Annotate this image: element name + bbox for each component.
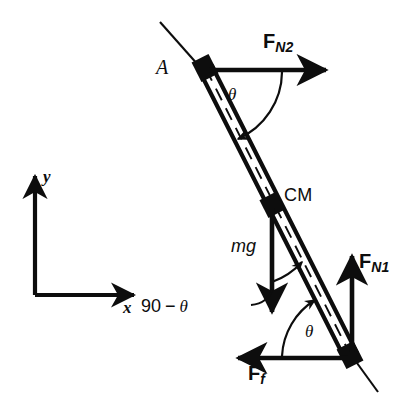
label-point-a: A [156, 57, 168, 77]
joint-blocks [192, 54, 364, 369]
figure-canvas: A FN2 CM mg 90−θ FN1 Ff θ θ y x [0, 0, 413, 411]
label-angle-top: θ [228, 86, 236, 103]
label-angle-center-of-mass: 90−θ [141, 297, 188, 315]
coordinate-axes [35, 176, 134, 295]
force-subscript: f [260, 371, 265, 387]
force-symbol: F [248, 362, 260, 384]
force-symbol: F [263, 30, 275, 52]
label-weight: mg [231, 237, 256, 255]
angle-theta-glyph: θ [180, 297, 188, 316]
label-axis-y: y [43, 168, 51, 185]
leader-line-angle-cm [251, 290, 272, 305]
force-symbol: F [359, 250, 371, 272]
force-subscript: N2 [275, 39, 293, 55]
ladder-free-body-diagram [0, 0, 413, 411]
label-axis-x: x [123, 299, 132, 316]
angle-value: 90 [141, 296, 161, 316]
label-center-of-mass: CM [284, 186, 313, 204]
angle-minus-sign: − [161, 296, 180, 316]
label-force-normal-top: FN2 [263, 31, 294, 54]
label-angle-bottom: θ [305, 323, 313, 340]
label-force-normal-bottom: FN1 [359, 251, 390, 274]
force-subscript: N1 [371, 259, 389, 275]
label-force-friction: Ff [248, 363, 265, 386]
